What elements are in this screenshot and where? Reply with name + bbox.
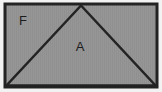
figure-canvas: F A bbox=[0, 0, 162, 92]
region-label-f: F bbox=[19, 13, 27, 28]
geometry-figure: F A bbox=[0, 0, 162, 92]
region-label-a: A bbox=[76, 39, 85, 54]
